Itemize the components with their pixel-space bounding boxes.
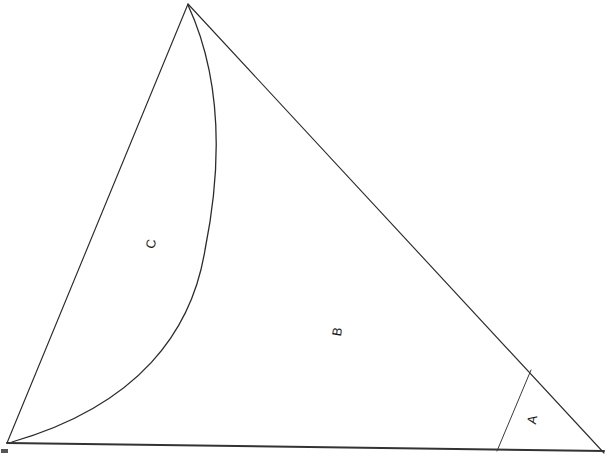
geometric-figure: C B A	[0, 0, 612, 456]
figure-background	[0, 0, 612, 456]
figure-canvas: C B A	[0, 0, 612, 456]
cropped-corner-mark	[1, 449, 8, 453]
